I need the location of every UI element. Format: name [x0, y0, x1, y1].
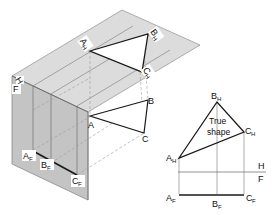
svg-text:H: H — [251, 131, 255, 137]
svg-text:F: F — [29, 156, 33, 162]
folding-label-f: F — [258, 174, 264, 184]
ortho-label-cf: C F — [246, 193, 256, 204]
label-c: C — [142, 134, 149, 144]
svg-text:F: F — [47, 165, 51, 171]
ortho-label-af: A F — [166, 193, 176, 204]
svg-text:H: H — [217, 96, 221, 102]
svg-text:F: F — [172, 198, 176, 204]
svg-text:F: F — [218, 204, 222, 210]
svg-text:F: F — [252, 198, 256, 204]
label-a: A — [88, 120, 94, 130]
label-b: B — [148, 96, 154, 106]
svg-text:F: F — [13, 84, 19, 94]
ortho-label-bf: B F — [212, 199, 222, 210]
svg-text:F: F — [78, 181, 82, 187]
true-shape-label-line1: True — [209, 116, 226, 126]
svg-text:H: H — [172, 158, 176, 164]
ortho-label-ah: A H — [166, 153, 176, 164]
label-cf: C F — [71, 175, 85, 187]
plane-label-f: F — [12, 84, 21, 94]
true-shape-label-line2: shape — [207, 127, 230, 137]
ortho-label-ch: C H — [245, 126, 255, 137]
label-af: A F — [22, 150, 36, 162]
folding-label-h: H — [258, 161, 265, 171]
label-bf: B F — [40, 159, 54, 171]
diagram-canvas: H F A H B H C H A B C A F B F C F H F — [0, 0, 275, 215]
ortho-label-bh: B H — [211, 91, 221, 102]
